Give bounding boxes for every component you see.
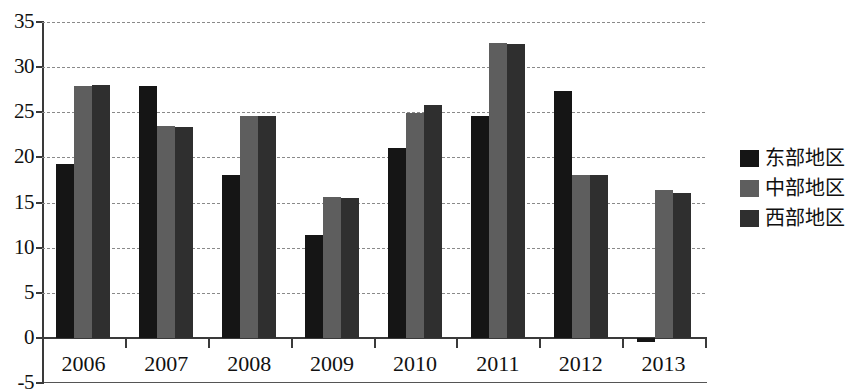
bar-2011-东部地区 [471,116,489,338]
x-tick-mark [291,339,293,348]
bar-chart: -505101520253035 20062007200820092010201… [0,0,850,389]
bar-2011-中部地区 [489,43,507,338]
legend-swatch-icon [740,180,759,197]
y-tick-label: 25 [0,101,34,122]
bar-2013-中部地区 [655,190,673,338]
x-tick-label-2008: 2008 [204,351,294,377]
bar-2010-中部地区 [406,113,424,338]
y-tick-label: 5 [0,282,34,303]
bar-2008-东部地区 [222,175,240,337]
bar-2007-中部地区 [157,126,175,338]
plot-area [42,22,705,383]
bar-2007-东部地区 [139,86,157,338]
y-tick-label: 15 [0,192,34,213]
legend-label: 西部地区 [765,207,845,229]
bar-2012-西部地区 [590,175,608,337]
legend-swatch-icon [740,150,759,167]
x-tick-label-2011: 2011 [453,351,543,377]
y-tick-label: 35 [0,11,34,32]
legend-swatch-icon [740,210,759,227]
bar-2006-东部地区 [56,164,74,338]
y-tick-label: 10 [0,237,34,258]
bar-2006-中部地区 [74,86,92,338]
x-tick-label-2013: 2013 [619,351,709,377]
x-tick-mark [374,339,376,348]
x-tick-mark [456,339,458,348]
bar-2012-中部地区 [572,175,590,338]
x-tick-label-2010: 2010 [370,351,460,377]
x-tick-label-2007: 2007 [121,351,211,377]
legend-item-1[interactable]: 东部地区 [740,143,850,173]
bar-2007-西部地区 [175,127,193,338]
x-tick-mark [42,339,44,348]
bar-group-2011 [456,22,539,383]
bar-group-2007 [125,22,208,383]
chart-legend: 东部地区中部地区西部地区 [740,143,850,233]
y-tick-label: -5 [0,372,34,389]
bar-2010-东部地区 [388,148,406,338]
bar-2008-西部地区 [258,116,276,338]
bar-2009-中部地区 [323,197,341,338]
y-tick-label: 30 [0,56,34,77]
legend-item-3[interactable]: 西部地区 [740,203,850,233]
bar-2011-西部地区 [507,44,525,338]
x-tick-mark [125,339,127,348]
bar-2013-东部地区 [637,338,655,343]
x-tick-mark [622,339,624,348]
bar-group-2012 [539,22,622,383]
bar-group-2010 [374,22,457,383]
y-tick-label: 0 [0,327,34,348]
bar-2009-西部地区 [341,198,359,338]
x-tick-mark [208,339,210,348]
bar-group-2008 [208,22,291,383]
bar-2012-东部地区 [554,91,572,337]
legend-label: 中部地区 [765,177,845,199]
x-tick-label-2006: 2006 [38,351,128,377]
bar-group-2013 [622,22,705,383]
legend-item-2[interactable]: 中部地区 [740,173,850,203]
bar-2008-中部地区 [240,116,258,338]
y-tick-label: 20 [0,146,34,167]
bar-2006-西部地区 [92,85,110,338]
bar-group-2009 [291,22,374,383]
bar-2010-西部地区 [424,105,442,338]
x-tick-label-2012: 2012 [536,351,626,377]
bar-group-2006 [42,22,125,383]
bar-2013-西部地区 [673,193,691,338]
legend-label: 东部地区 [765,147,845,169]
x-tick-mark [705,339,707,348]
x-tick-label-2009: 2009 [287,351,377,377]
bar-2009-东部地区 [305,235,323,338]
x-tick-mark [539,339,541,348]
